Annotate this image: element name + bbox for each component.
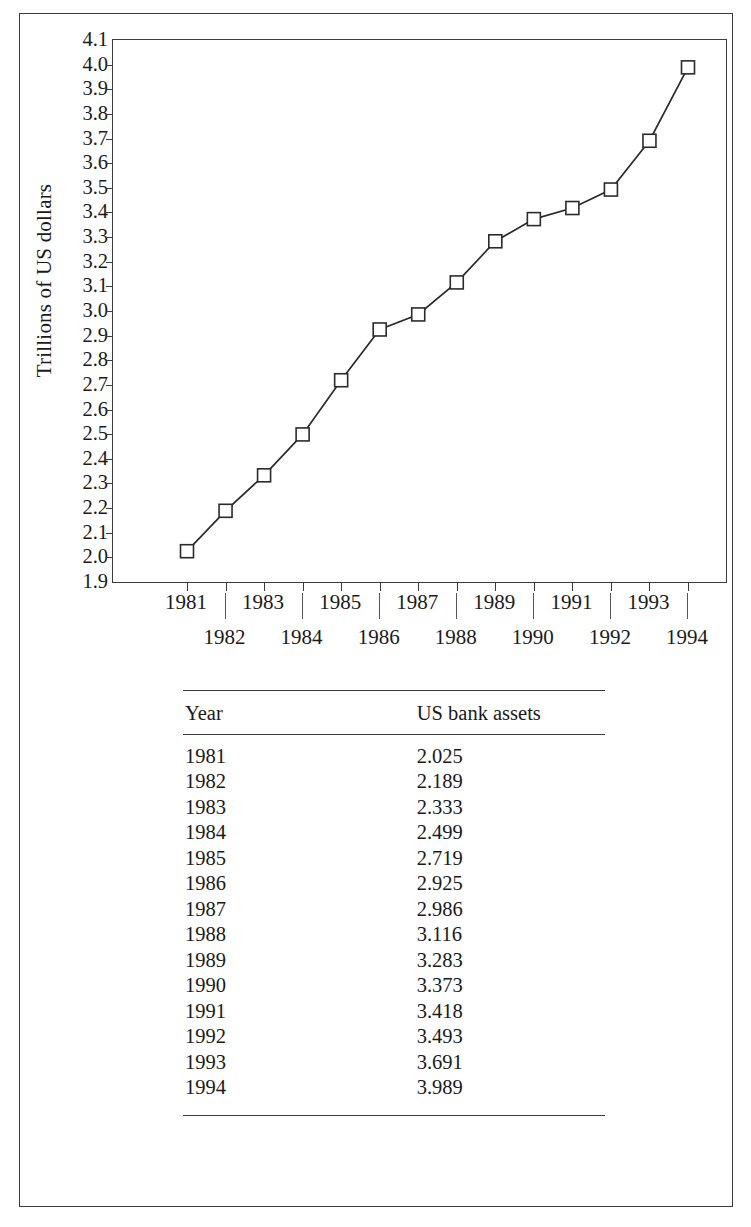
- y-axis-tick-mark: [106, 262, 113, 263]
- x-axis-tick-mark: [688, 582, 689, 591]
- x-axis-tick-label: 1990: [512, 627, 554, 648]
- table-row: 19872.986: [183, 897, 605, 923]
- cell-year: 1982: [183, 769, 415, 795]
- cell-value: 2.986: [415, 897, 605, 923]
- x-axis-tick-label: 1989: [473, 592, 515, 613]
- cell-value: 2.925: [415, 871, 605, 897]
- cell-value: 3.418: [415, 999, 605, 1025]
- figure-page: Trillions of US dollars 4.14.03.93.83.73…: [0, 0, 751, 1227]
- data-point-marker: [373, 323, 386, 336]
- data-point-marker: [643, 134, 656, 147]
- y-axis-tick-mark: [106, 459, 113, 460]
- x-axis-tick-label: 1987: [396, 592, 438, 613]
- y-axis-tick-label: 2.7: [60, 374, 108, 395]
- y-axis-tick-mark: [106, 410, 113, 411]
- x-axis-tick-label: 1985: [319, 592, 361, 613]
- cell-year: 1986: [183, 871, 415, 897]
- table-row: 19852.719: [183, 846, 605, 872]
- table-bottom-rule: [183, 1115, 605, 1116]
- y-axis-tick-label: 3.5: [60, 177, 108, 198]
- y-axis-tick-mark: [106, 360, 113, 361]
- data-point-marker: [219, 504, 232, 517]
- data-point-marker: [604, 183, 617, 196]
- cell-year: 1983: [183, 795, 415, 821]
- cell-year: 1993: [183, 1050, 415, 1076]
- table-row: 19913.418: [183, 999, 605, 1025]
- cell-year: 1981: [183, 734, 415, 769]
- cell-year: 1991: [183, 999, 415, 1025]
- y-axis-tick-label: 4.0: [60, 54, 108, 75]
- data-point-marker: [682, 61, 695, 74]
- cell-value: 2.333: [415, 795, 605, 821]
- x-axis-tick-labels: 1981198219831984198519861987198819891990…: [112, 592, 727, 664]
- y-axis-tick-label: 2.2: [60, 497, 108, 518]
- y-axis-tick-label: 3.0: [60, 300, 108, 321]
- y-axis-tick-mark: [106, 237, 113, 238]
- x-axis-tick-label: 1984: [281, 627, 323, 648]
- data-point-marker: [335, 374, 348, 387]
- cell-value: 3.493: [415, 1024, 605, 1050]
- cell-value: 3.691: [415, 1050, 605, 1076]
- y-axis-tick-mark: [106, 483, 113, 484]
- y-axis-tick-label: 3.9: [60, 78, 108, 99]
- y-axis-tick-mark: [106, 89, 113, 90]
- y-axis-tick-mark: [106, 188, 113, 189]
- x-axis-tick-mark: [226, 582, 227, 591]
- table-row: 19832.333: [183, 795, 605, 821]
- cell-year: 1988: [183, 922, 415, 948]
- x-axis-tick-label: 1993: [627, 592, 669, 613]
- table-row: 19883.116: [183, 922, 605, 948]
- y-axis-tick-mark: [106, 557, 113, 558]
- table-row: 19893.283: [183, 948, 605, 974]
- data-table-block: Year US bank assets 19812.02519822.18919…: [183, 690, 605, 1116]
- table-row: 19822.189: [183, 769, 605, 795]
- y-axis-tick-mark: [106, 114, 113, 115]
- y-axis-tick-mark: [106, 163, 113, 164]
- y-axis-tick-mark: [106, 336, 113, 337]
- data-point-marker: [527, 213, 540, 226]
- x-axis-tick-label: 1994: [666, 627, 708, 648]
- y-axis-tick-label: 2.0: [60, 546, 108, 567]
- plot-area: [112, 39, 727, 583]
- y-axis-tick-label: 2.4: [60, 448, 108, 469]
- x-axis-tick-mark: [457, 582, 458, 591]
- y-axis-tick-label: 2.6: [60, 399, 108, 420]
- table-header-row: Year US bank assets: [183, 691, 605, 735]
- table-row: 19903.373: [183, 973, 605, 999]
- y-axis-tick-mark: [106, 65, 113, 66]
- y-axis-tick-label: 3.1: [60, 275, 108, 296]
- x-axis-tick-label: 1983: [242, 592, 284, 613]
- y-axis-tick-mark: [106, 212, 113, 213]
- data-point-marker: [181, 545, 194, 558]
- y-axis-tick-mark: [106, 385, 113, 386]
- x-axis-label-separator: [687, 593, 688, 619]
- y-axis-tick-label: 2.3: [60, 472, 108, 493]
- x-axis-label-separator: [610, 593, 611, 619]
- table-body: 19812.02519822.18919832.33319842.4991985…: [183, 734, 605, 1101]
- cell-year: 1984: [183, 820, 415, 846]
- cell-value: 3.283: [415, 948, 605, 974]
- data-table: Year US bank assets 19812.02519822.18919…: [183, 690, 605, 1101]
- table-row: 19923.493: [183, 1024, 605, 1050]
- table-row: 19862.925: [183, 871, 605, 897]
- cell-value: 2.025: [415, 734, 605, 769]
- y-axis-tick-mark: [106, 139, 113, 140]
- y-axis-tick-label: 4.1: [60, 29, 108, 50]
- cell-year: 1990: [183, 973, 415, 999]
- y-axis-tick-mark: [106, 508, 113, 509]
- y-axis-tick-label: 3.2: [60, 251, 108, 272]
- y-axis-tick-label: 2.1: [60, 522, 108, 543]
- y-axis-tick-label: 3.3: [60, 226, 108, 247]
- table-row: 19933.691: [183, 1050, 605, 1076]
- y-axis-title: Trillions of US dollars: [32, 151, 57, 411]
- y-axis-tick-mark: [106, 311, 113, 312]
- x-axis-label-separator: [456, 593, 457, 619]
- cell-value: 3.116: [415, 922, 605, 948]
- column-header-value: US bank assets: [415, 691, 605, 735]
- cell-value: 2.189: [415, 769, 605, 795]
- x-axis-label-separator: [302, 593, 303, 619]
- cell-value: 2.499: [415, 820, 605, 846]
- y-axis-tick-label: 3.7: [60, 128, 108, 149]
- data-point-marker: [258, 469, 271, 482]
- cell-year: 1987: [183, 897, 415, 923]
